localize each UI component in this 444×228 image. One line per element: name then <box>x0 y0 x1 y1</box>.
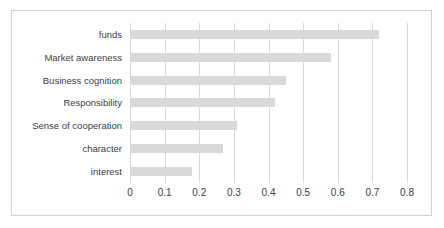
bar <box>130 121 237 130</box>
category-label: funds <box>12 23 126 46</box>
bar-row <box>130 23 407 46</box>
bar-row <box>130 92 407 115</box>
bar-row <box>130 114 407 137</box>
x-tick-label: 0.1 <box>158 187 172 198</box>
bar-series <box>130 23 407 183</box>
category-label: Sense of cooperation <box>12 114 126 137</box>
bar <box>130 53 331 62</box>
category-label: Business cognition <box>12 69 126 92</box>
category-label: character <box>12 137 126 160</box>
category-label: Responsibility <box>12 92 126 115</box>
bar <box>130 30 379 39</box>
x-tick-label: 0.3 <box>227 187 241 198</box>
category-label: interest <box>12 160 126 183</box>
x-axis-tick-labels: 00.10.20.30.40.50.60.70.8 <box>130 187 407 203</box>
bar-row <box>130 69 407 92</box>
x-tick-label: 0.5 <box>296 187 310 198</box>
x-tick-label: 0.6 <box>331 187 345 198</box>
bar <box>130 167 192 176</box>
x-tick-label: 0.4 <box>262 187 276 198</box>
bar-row <box>130 160 407 183</box>
x-tick-label: 0.8 <box>400 187 414 198</box>
bar <box>130 98 275 107</box>
bar-row <box>130 137 407 160</box>
x-tick-label: 0 <box>127 187 133 198</box>
x-tick-label: 0.7 <box>365 187 379 198</box>
x-tick-label: 0.2 <box>192 187 206 198</box>
gridline-0.8 <box>407 23 408 183</box>
bar <box>130 76 286 85</box>
y-axis-category-labels: fundsMarket awarenessBusiness cognitionR… <box>12 23 126 183</box>
chart-frame: fundsMarket awarenessBusiness cognitionR… <box>11 10 432 216</box>
plot-area <box>130 23 407 183</box>
bar <box>130 144 223 153</box>
category-label: Market awareness <box>12 46 126 69</box>
bar-row <box>130 46 407 69</box>
